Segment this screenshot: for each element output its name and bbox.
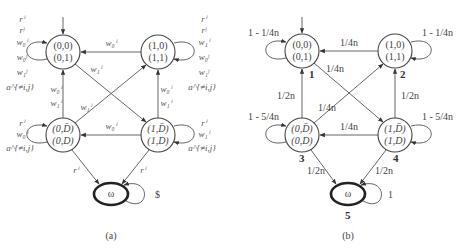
loop-labels-a00: rⁱ rʲ w₀ⁱ w₀ʲ w₁ʲ a^{≠i,j} <box>6 14 34 92</box>
state-label: (0,0) <box>53 40 72 52</box>
caption-b: (b) <box>342 230 354 242</box>
edge-a0D-a10 <box>75 65 146 123</box>
svg-text:w₀ⁱ: w₀ⁱ <box>16 129 28 139</box>
state-label: (0,1) <box>53 52 72 64</box>
loop-labels-a1D: rⁱ w₁ⁱ a^{≠i,j} <box>188 118 216 153</box>
state-number: 1 <box>309 68 315 80</box>
loop-a00 <box>27 42 47 60</box>
loop-a1D <box>174 125 194 143</box>
state-number: 3 <box>299 152 305 164</box>
edge-label: 1/4n <box>340 37 358 48</box>
edge-a00-a1D <box>75 64 146 122</box>
loop-label-b4: 1 - 5/4n <box>422 111 453 122</box>
state-label: (1,D) <box>147 135 169 147</box>
loop-a10 <box>174 42 194 60</box>
svg-text:w₁ʲ: w₁ʲ <box>17 67 28 77</box>
state-label: (1,D̄) <box>147 123 169 135</box>
svg-text:rⁱ: rⁱ <box>201 118 208 128</box>
svg-text:w₀ʲ: w₀ʲ <box>199 52 210 62</box>
edge-label: 1/4n <box>318 102 336 113</box>
edge-b1-b4 <box>314 63 383 122</box>
edge-label: 1/2n <box>307 165 325 176</box>
loop-label-aw: $ <box>155 189 160 200</box>
state-label: (1,1) <box>148 52 167 64</box>
edge-label: 1/4n <box>340 121 358 132</box>
state-label: (0,D̄) <box>52 123 74 135</box>
loop-label-b5: 1 <box>388 189 393 200</box>
edge-label: w₁ⁱ <box>50 98 62 108</box>
state-label: (1,D) <box>384 135 406 147</box>
edge-label: rⁱ <box>73 165 80 175</box>
loop-a0D <box>27 125 47 143</box>
loop-b3 <box>266 125 286 143</box>
edge-label: w₁ⁱ <box>160 98 172 108</box>
state-label: (0,D̄) <box>291 123 313 135</box>
edge-label: w₀ⁱ <box>160 84 172 94</box>
edge-label: 1/4n <box>326 63 344 74</box>
state-label: (0,D) <box>291 135 313 147</box>
loop-labels-a0D: rⁱ w₀ⁱ a^{≠i,j} <box>6 118 34 153</box>
state-label: (0,0) <box>292 39 311 51</box>
state-label: (1,0) <box>385 39 404 51</box>
svg-text:rʲ: rʲ <box>202 25 208 35</box>
svg-text:w₀ʲ: w₀ʲ <box>17 52 28 62</box>
edge-label: 1/2n <box>375 165 393 176</box>
state-label: ω <box>108 188 115 199</box>
state-number: 5 <box>345 209 351 221</box>
caption-a: (a) <box>105 230 116 242</box>
svg-text:rʲ: rʲ <box>20 25 26 35</box>
state-label: (0,1) <box>292 51 311 63</box>
markov-diagrams: (0,0) (0,1) (1,0) (1,1) (0,D̄) (0,D) (1,… <box>0 0 464 250</box>
svg-text:rⁱ: rⁱ <box>19 118 26 128</box>
svg-text:w₁ⁱ: w₁ⁱ <box>198 129 210 139</box>
edge-label: w₁ⁱ <box>90 64 102 74</box>
edge-label: w₁ⁱ <box>80 102 92 112</box>
state-label: (1,D̄) <box>384 123 406 135</box>
state-label: (1,1) <box>385 51 404 63</box>
edge-label: w₀ⁱ <box>50 84 62 94</box>
svg-text:a^{≠i,j}: a^{≠i,j} <box>6 143 34 153</box>
edge-label: rⁱ <box>140 165 147 175</box>
loop-labels-a10: rⁱ rʲ w₁ⁱ w₀ʲ w₁ʲ a^{≠i,j} <box>188 14 216 92</box>
svg-text:w₁ʲ: w₁ʲ <box>199 67 210 77</box>
loop-b2 <box>411 41 431 59</box>
state-number: 4 <box>393 152 399 164</box>
loop-label-b2: 1 - 1/4n <box>422 27 453 38</box>
edge-label: 1/2n <box>277 90 295 101</box>
svg-text:a^{≠i,j}: a^{≠i,j} <box>188 82 216 92</box>
state-label: ω <box>345 188 352 199</box>
edge-label: 1/2n <box>401 90 419 101</box>
svg-text:rⁱ: rⁱ <box>19 14 26 24</box>
svg-text:rⁱ: rⁱ <box>201 14 208 24</box>
loop-b4 <box>411 125 431 143</box>
loop-label-b1: 1 - 1/4n <box>248 27 279 38</box>
diagram-b: (0,0) (0,1) (1,0) (1,1) (0,D̄) (0,D) (1,… <box>248 17 453 242</box>
state-number: 2 <box>400 68 406 80</box>
diagram-a: (0,0) (0,1) (1,0) (1,1) (0,D̄) (0,D) (1,… <box>6 14 216 242</box>
state-label: (0,D) <box>52 135 74 147</box>
edge-b3-b2 <box>314 64 383 123</box>
svg-text:w₁ⁱ: w₁ⁱ <box>198 37 210 47</box>
state-label: (1,0) <box>148 40 167 52</box>
loop-label-b3: 1 - 5/4n <box>248 111 279 122</box>
loop-b1 <box>266 41 286 59</box>
svg-text:a^{≠i,j}: a^{≠i,j} <box>6 82 34 92</box>
svg-text:w₀ⁱ: w₀ⁱ <box>16 37 28 47</box>
edge-label: w₀ⁱ <box>105 121 117 131</box>
svg-text:a^{≠i,j}: a^{≠i,j} <box>188 143 216 153</box>
edge-label: w₀ⁱ <box>105 38 117 48</box>
